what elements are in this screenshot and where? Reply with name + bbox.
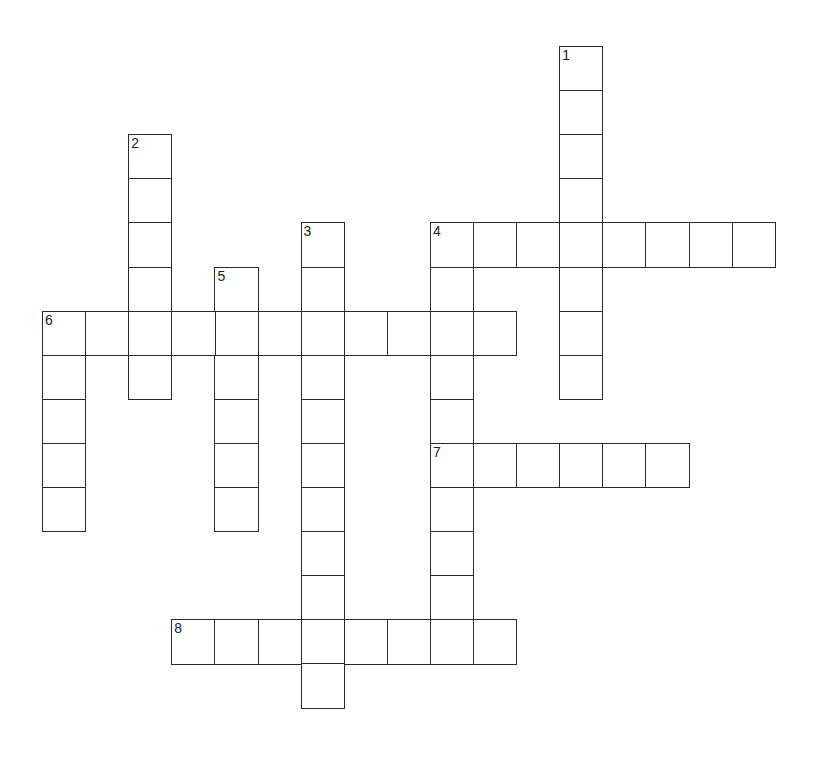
crossword-cell[interactable] bbox=[559, 355, 603, 400]
letter-input[interactable] bbox=[474, 620, 516, 663]
crossword-cell[interactable] bbox=[602, 443, 646, 488]
crossword-cell[interactable] bbox=[559, 443, 603, 488]
crossword-cell[interactable] bbox=[214, 619, 258, 664]
letter-input[interactable] bbox=[388, 620, 430, 663]
letter-input[interactable] bbox=[431, 356, 473, 399]
crossword-cell[interactable] bbox=[430, 267, 474, 312]
crossword-cell[interactable] bbox=[559, 178, 603, 223]
letter-input[interactable] bbox=[431, 488, 473, 531]
crossword-cell[interactable] bbox=[559, 134, 603, 179]
crossword-cell[interactable] bbox=[301, 355, 345, 400]
crossword-cell[interactable] bbox=[602, 222, 646, 267]
letter-input[interactable] bbox=[560, 356, 602, 399]
crossword-cell[interactable] bbox=[301, 531, 345, 576]
crossword-cell[interactable] bbox=[301, 619, 345, 664]
letter-input[interactable] bbox=[431, 576, 473, 619]
letter-input[interactable] bbox=[302, 268, 344, 311]
crossword-cell[interactable] bbox=[559, 90, 603, 135]
letter-input[interactable] bbox=[43, 356, 85, 399]
letter-input[interactable] bbox=[474, 223, 516, 266]
letter-input[interactable] bbox=[172, 620, 214, 663]
crossword-cell[interactable] bbox=[473, 222, 517, 267]
letter-input[interactable] bbox=[129, 135, 171, 178]
crossword-cell[interactable] bbox=[516, 443, 560, 488]
letter-input[interactable] bbox=[431, 268, 473, 311]
crossword-cell[interactable] bbox=[430, 355, 474, 400]
letter-input[interactable] bbox=[129, 356, 171, 399]
crossword-cell[interactable] bbox=[430, 531, 474, 576]
letter-input[interactable] bbox=[560, 268, 602, 311]
crossword-cell[interactable]: 4 bbox=[430, 222, 474, 267]
crossword-cell[interactable] bbox=[128, 355, 172, 400]
letter-input[interactable] bbox=[646, 223, 688, 266]
crossword-cell[interactable] bbox=[214, 399, 258, 444]
crossword-cell[interactable] bbox=[689, 222, 733, 267]
letter-input[interactable] bbox=[560, 91, 602, 134]
crossword-cell[interactable] bbox=[301, 487, 345, 532]
letter-input[interactable] bbox=[431, 444, 473, 487]
crossword-cell[interactable] bbox=[301, 399, 345, 444]
crossword-cell[interactable] bbox=[128, 222, 172, 267]
letter-input[interactable] bbox=[43, 444, 85, 487]
crossword-cell[interactable] bbox=[559, 267, 603, 312]
letter-input[interactable] bbox=[646, 444, 688, 487]
letter-input[interactable] bbox=[431, 312, 473, 355]
letter-input[interactable] bbox=[215, 312, 257, 355]
crossword-cell[interactable] bbox=[85, 311, 129, 356]
letter-input[interactable] bbox=[172, 312, 214, 355]
crossword-cell[interactable]: 1 bbox=[559, 46, 603, 91]
letter-input[interactable] bbox=[215, 400, 257, 443]
crossword-cell[interactable] bbox=[171, 311, 215, 356]
crossword-cell[interactable] bbox=[214, 355, 258, 400]
letter-input[interactable] bbox=[302, 356, 344, 399]
crossword-cell[interactable]: 7 bbox=[430, 443, 474, 488]
letter-input[interactable] bbox=[302, 488, 344, 531]
crossword-cell[interactable] bbox=[42, 399, 86, 444]
letter-input[interactable] bbox=[302, 532, 344, 575]
crossword-cell[interactable] bbox=[42, 443, 86, 488]
letter-input[interactable] bbox=[345, 312, 387, 355]
letter-input[interactable] bbox=[560, 223, 602, 266]
crossword-cell[interactable] bbox=[42, 355, 86, 400]
crossword-cell[interactable] bbox=[42, 487, 86, 532]
crossword-cell[interactable] bbox=[473, 311, 517, 356]
crossword-cell[interactable] bbox=[344, 619, 388, 664]
letter-input[interactable] bbox=[215, 268, 257, 311]
letter-input[interactable] bbox=[129, 223, 171, 266]
crossword-cell[interactable] bbox=[430, 619, 474, 664]
letter-input[interactable] bbox=[302, 444, 344, 487]
letter-input[interactable] bbox=[560, 179, 602, 222]
letter-input[interactable] bbox=[129, 312, 171, 355]
crossword-cell[interactable] bbox=[128, 311, 172, 356]
crossword-cell[interactable] bbox=[128, 178, 172, 223]
crossword-cell[interactable] bbox=[214, 443, 258, 488]
letter-input[interactable] bbox=[302, 664, 344, 707]
letter-input[interactable] bbox=[129, 179, 171, 222]
letter-input[interactable] bbox=[345, 620, 387, 663]
letter-input[interactable] bbox=[517, 223, 559, 266]
crossword-cell[interactable] bbox=[430, 575, 474, 620]
crossword-cell[interactable] bbox=[301, 663, 345, 708]
crossword-cell[interactable] bbox=[258, 311, 302, 356]
crossword-cell[interactable] bbox=[301, 443, 345, 488]
crossword-cell[interactable]: 2 bbox=[128, 134, 172, 179]
crossword-cell[interactable] bbox=[258, 619, 302, 664]
crossword-cell[interactable] bbox=[645, 222, 689, 267]
crossword-cell[interactable] bbox=[430, 311, 474, 356]
letter-input[interactable] bbox=[43, 312, 85, 355]
crossword-cell[interactable] bbox=[516, 222, 560, 267]
letter-input[interactable] bbox=[690, 223, 732, 266]
letter-input[interactable] bbox=[388, 312, 430, 355]
crossword-cell[interactable]: 6 bbox=[42, 311, 86, 356]
crossword-cell[interactable]: 3 bbox=[301, 222, 345, 267]
letter-input[interactable] bbox=[431, 400, 473, 443]
crossword-cell[interactable] bbox=[559, 222, 603, 267]
crossword-cell[interactable] bbox=[301, 575, 345, 620]
crossword-cell[interactable] bbox=[732, 222, 776, 267]
crossword-cell[interactable] bbox=[559, 311, 603, 356]
letter-input[interactable] bbox=[215, 620, 257, 663]
letter-input[interactable] bbox=[43, 488, 85, 531]
letter-input[interactable] bbox=[474, 444, 516, 487]
letter-input[interactable] bbox=[259, 312, 301, 355]
crossword-cell[interactable]: 8 bbox=[171, 619, 215, 664]
